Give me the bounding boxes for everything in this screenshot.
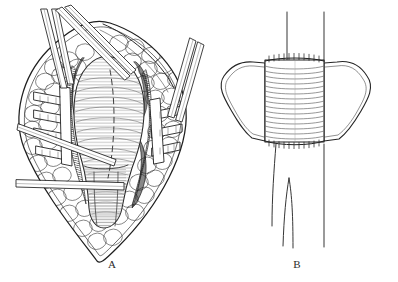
panel-a-caption: A xyxy=(104,258,120,270)
figure-container: A B xyxy=(0,0,398,282)
tube-graft xyxy=(265,60,324,142)
panel-b-caption: B xyxy=(289,258,305,270)
figure-artwork xyxy=(0,0,398,282)
